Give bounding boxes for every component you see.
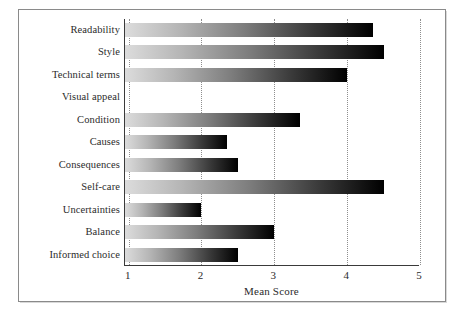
bar-uncertainties bbox=[125, 203, 201, 217]
bar-balance bbox=[125, 225, 274, 239]
bar-row bbox=[125, 244, 419, 266]
bar-technical-terms bbox=[125, 68, 347, 82]
category-label-self-care: Self-care bbox=[8, 180, 120, 194]
x-tick-label-5: 5 bbox=[416, 269, 422, 281]
category-label-informed-choice: Informed choice bbox=[8, 248, 120, 262]
category-label-readability: Readability bbox=[8, 23, 120, 37]
category-label-causes: Causes bbox=[8, 135, 120, 149]
bar-row bbox=[125, 86, 419, 108]
x-tick-label-4: 4 bbox=[343, 269, 349, 281]
bar-style bbox=[125, 45, 384, 59]
x-axis-ticks: 12345 bbox=[124, 269, 419, 285]
bar-self-care bbox=[125, 180, 384, 194]
bar-row bbox=[125, 41, 419, 63]
category-label-visual-appeal: Visual appeal bbox=[8, 90, 120, 104]
bar-row bbox=[125, 154, 419, 176]
gridline-5 bbox=[420, 19, 422, 265]
category-label-technical-terms: Technical terms bbox=[8, 68, 120, 82]
bar-row bbox=[125, 221, 419, 243]
category-axis-labels: ReadabilityStyleTechnical termsVisual ap… bbox=[5, 19, 120, 266]
x-tick-label-3: 3 bbox=[271, 269, 277, 281]
x-axis-title: Mean Score bbox=[124, 285, 419, 297]
bar-consequences bbox=[125, 158, 238, 172]
bar-chart: ReadabilityStyleTechnical termsVisual ap… bbox=[1, 1, 464, 311]
bar-row bbox=[125, 109, 419, 131]
bar-condition bbox=[125, 113, 300, 127]
plot-area bbox=[124, 19, 419, 266]
bar-row bbox=[125, 131, 419, 153]
bar-row bbox=[125, 19, 419, 41]
x-tick-label-1: 1 bbox=[125, 269, 131, 281]
bar-readability bbox=[125, 23, 373, 37]
category-label-consequences: Consequences bbox=[8, 158, 120, 172]
category-label-uncertainties: Uncertainties bbox=[8, 203, 120, 217]
bar-row bbox=[125, 176, 419, 198]
bar-row bbox=[125, 199, 419, 221]
category-label-style: Style bbox=[8, 45, 120, 59]
bar-row bbox=[125, 64, 419, 86]
figure-frame: ReadabilityStyleTechnical termsVisual ap… bbox=[18, 9, 446, 302]
category-label-condition: Condition bbox=[8, 113, 120, 127]
bar-causes bbox=[125, 135, 227, 149]
category-label-balance: Balance bbox=[8, 225, 120, 239]
x-tick-label-2: 2 bbox=[198, 269, 204, 281]
bar-informed-choice bbox=[125, 248, 238, 262]
